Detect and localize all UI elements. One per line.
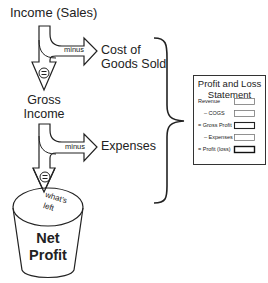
cogs-label-line2: Goods Sold	[101, 57, 166, 71]
net-profit-line2: Profit	[18, 247, 78, 263]
expenses-label: Expenses	[101, 139, 156, 153]
statement-row-gross-profit: = Gross Profit	[198, 122, 232, 128]
equals-icon	[39, 68, 49, 78]
gross-income-line2: Income	[14, 107, 74, 121]
statement-row-profit-loss: = Profit (loss)	[198, 146, 231, 152]
equals-icon-2	[40, 172, 50, 182]
minus-label-2: minus	[65, 142, 85, 151]
statement-row-revenue: Revenue	[198, 98, 220, 104]
net-profit-line1: Net	[18, 230, 78, 246]
statement-title-line1: Profit and Loss	[194, 78, 265, 89]
statement-row-expenses: – Expenses	[204, 134, 233, 140]
gross-income-line1: Gross	[14, 93, 74, 107]
split-arrow-1	[32, 26, 97, 90]
income-sales-label: Income (Sales)	[10, 5, 97, 20]
cogs-label-line1: Cost of	[101, 43, 141, 57]
statement-row-cogs: – COGS	[204, 110, 225, 116]
minus-label-1: minus	[64, 45, 84, 54]
